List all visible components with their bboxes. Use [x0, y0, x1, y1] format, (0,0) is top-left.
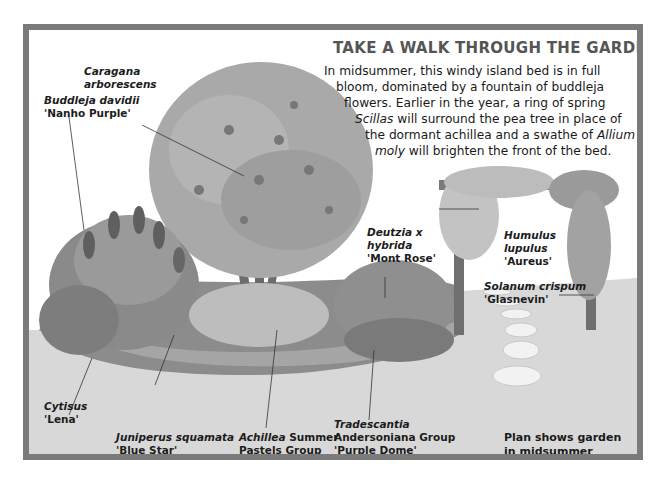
page-title: TAKE A WALK THROUGH THE GARDEN — [333, 39, 643, 57]
label-juniperus: Juniperus squamata 'Blue Star' — [116, 431, 234, 457]
intro-line-3: flowers. Earlier in the year, a ring of … — [344, 95, 605, 111]
plan-note: Plan shows garden in midsummer — [504, 431, 621, 459]
label-tradescantia: Tradescantia Andersoniana Group 'Purple … — [334, 418, 455, 457]
cytisus-shrub — [39, 285, 119, 355]
achillea-clump — [189, 283, 329, 347]
illustration-frame: TAKE A WALK THROUGH THE GARDEN In midsum… — [23, 24, 643, 460]
intro-line-6: moly will brighten the front of the bed. — [375, 143, 611, 159]
label-cytisus: Cytisus 'Lena' — [44, 400, 87, 426]
label-solanum: Solanum crispum 'Glasnevin' — [484, 280, 586, 306]
intro-line-4: Scillas will surround the pea tree in pl… — [355, 111, 622, 127]
intro-line-2: bloom, dominated by a fountain of buddle… — [336, 79, 604, 95]
label-buddleja: Buddleja davidii 'Nanho Purple' — [44, 94, 139, 120]
label-achillea: Achillea Summer Pastels Group — [239, 431, 338, 457]
label-deutzia: Deutzia x hybrida 'Mont Rose' — [367, 226, 436, 265]
label-caragana: Caragana arborescens — [84, 65, 157, 91]
label-humulus: Humulus lupulus 'Aureus' — [504, 229, 556, 268]
intro-line-1: In midsummer, this windy island bed is i… — [324, 63, 600, 79]
intro-line-5: the dormant achillea and a swathe of All… — [365, 127, 635, 143]
tradescantia-clump — [344, 318, 454, 362]
